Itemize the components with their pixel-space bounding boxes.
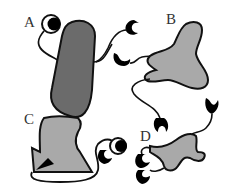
tether-line [132,79,160,118]
panel-a: A [24,14,112,117]
label-b: B [166,11,176,27]
shape-b-body [145,22,208,89]
tether-line [150,168,164,171]
tether-line [141,147,150,154]
crescent-claw-icon [125,20,139,35]
crescent-claw-icon [135,154,150,168]
tether-line [38,31,60,62]
crescent-claw-icon [154,118,168,132]
shape-c-body [32,117,92,173]
shape-d-body [150,134,205,171]
label-c: C [24,111,34,127]
crescent-claw-icon [136,170,150,184]
tether-line [192,114,212,134]
panel-b: B [96,11,208,132]
crescent-claw-icon [113,53,130,66]
panel-d: D [135,98,218,184]
label-d: D [140,128,151,144]
eye-ring-icon [110,138,127,154]
eye-ring-icon [42,15,61,33]
diagram-figure: A B C [0,0,235,195]
label-a: A [24,14,35,30]
shape-a-body [51,21,95,117]
panel-c: C [24,111,127,182]
crescent-claw-icon [205,98,218,114]
crescent-claw-icon [98,150,112,164]
